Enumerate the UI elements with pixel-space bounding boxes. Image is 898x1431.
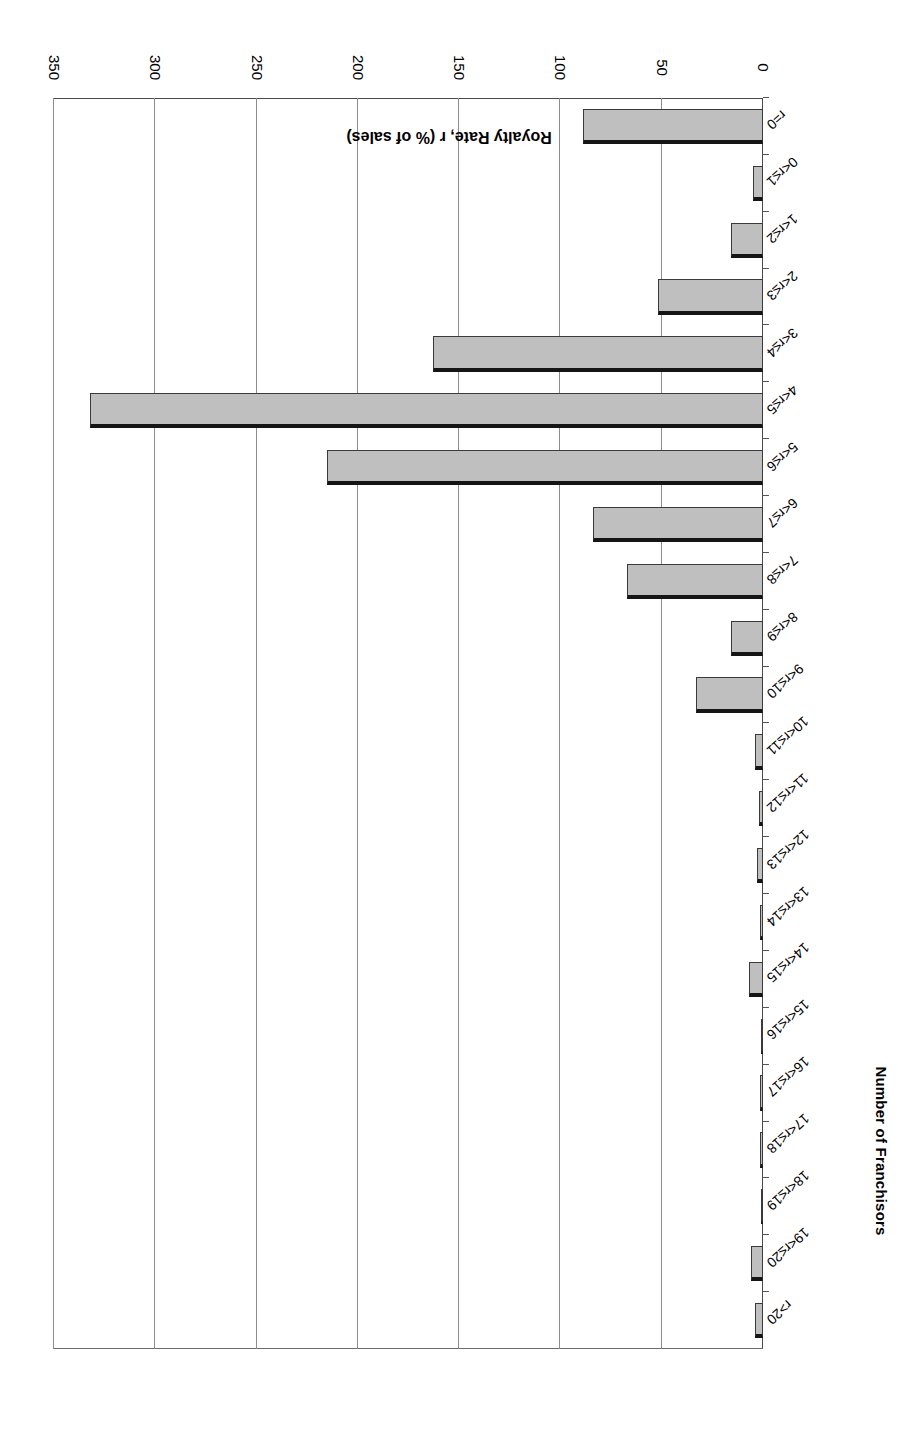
category-tick (763, 1234, 769, 1235)
value-tick-label: 300 (147, 46, 164, 90)
category-tick (763, 97, 769, 98)
value-tick-label: 250 (248, 46, 265, 90)
category-tick (763, 268, 769, 269)
value-tick-label: 50 (653, 46, 670, 90)
category-tick (763, 154, 769, 155)
rotated-figure-container: Number of Franchisors 050100150200250300… (0, 0, 898, 1431)
category-tick (763, 893, 769, 894)
category-tick (763, 1064, 769, 1065)
category-tick (763, 779, 769, 780)
bar-chart-figure: Number of Franchisors 050100150200250300… (0, 0, 898, 1431)
category-tick (763, 1291, 769, 1292)
value-tick-label: 100 (552, 46, 569, 90)
category-tick (763, 836, 769, 837)
value-tick-label: 200 (349, 46, 366, 90)
category-tick (763, 211, 769, 212)
category-tick (763, 324, 769, 325)
category-tick (763, 438, 769, 439)
category-tick (763, 723, 769, 724)
category-tick (763, 1121, 769, 1122)
plot-area (54, 98, 763, 1349)
category-tick (763, 1007, 769, 1008)
category-tick (763, 552, 769, 553)
category-ticks (54, 98, 763, 1349)
chart-page: Number of Franchisors 050100150200250300… (0, 0, 898, 1431)
category-tick (763, 666, 769, 667)
category-tick (763, 950, 769, 951)
category-axis-title: Royalty Rate, r (% of sales) (0, 128, 898, 146)
category-tick (763, 381, 769, 382)
category-tick (763, 1177, 769, 1178)
value-tick-label: 150 (451, 46, 468, 90)
value-tick-label: 350 (46, 46, 63, 90)
value-axis-title: Number of Franchisors (866, 1001, 890, 1301)
category-tick (763, 609, 769, 610)
value-tick-label: 0 (755, 46, 772, 90)
category-tick (763, 495, 769, 496)
